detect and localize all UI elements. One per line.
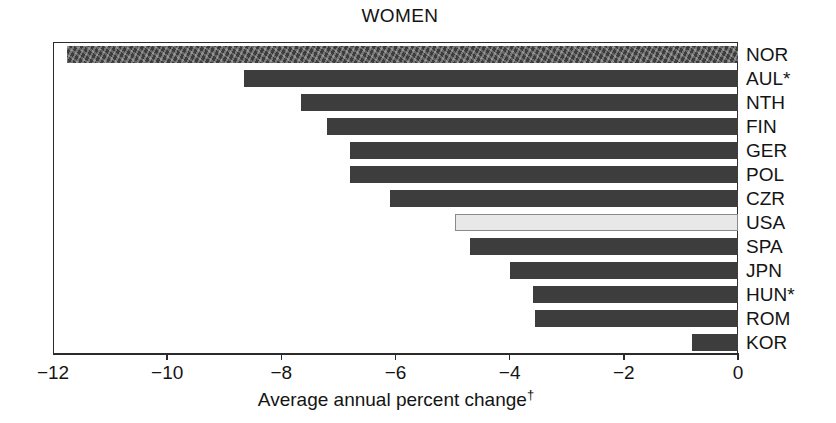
bar-aul xyxy=(244,70,738,87)
x-tick-label: −12 xyxy=(23,362,83,383)
bar-row xyxy=(53,164,738,188)
chart-figure: WOMEN −12−10−8−6−4−20 Average annual per… xyxy=(0,0,836,423)
bar-row xyxy=(53,140,738,164)
category-label-pol: POL xyxy=(746,165,784,184)
bar-row xyxy=(53,308,738,332)
x-tick xyxy=(281,353,283,360)
x-tick xyxy=(509,353,511,360)
bar-rom xyxy=(535,310,738,327)
bar-row xyxy=(53,212,738,236)
category-label-kor: KOR xyxy=(746,333,787,352)
bar-row xyxy=(53,116,738,140)
bar-usa xyxy=(455,214,738,231)
category-label-czr: CZR xyxy=(746,189,785,208)
category-label-nth: NTH xyxy=(746,93,785,112)
x-tick-label: 0 xyxy=(708,362,768,383)
category-label-fin: FIN xyxy=(746,117,777,136)
category-label-ger: GER xyxy=(746,141,787,160)
x-tick xyxy=(623,353,625,360)
category-label-nor: NOR xyxy=(746,45,788,64)
bar-row xyxy=(53,260,738,284)
bar-fin xyxy=(327,118,738,135)
x-axis-title-dagger: † xyxy=(527,387,534,402)
bar-hun xyxy=(533,286,739,303)
bar-row xyxy=(53,68,738,92)
x-tick xyxy=(737,353,739,360)
bars-layer xyxy=(53,42,738,354)
bar-row xyxy=(53,44,738,68)
x-axis-title-text: Average annual percent change xyxy=(258,389,527,410)
bar-nor xyxy=(67,46,738,63)
bar-row xyxy=(53,92,738,116)
x-tick-label: −4 xyxy=(480,362,540,383)
x-tick-label: −10 xyxy=(137,362,197,383)
chart-title: WOMEN xyxy=(0,5,800,27)
bar-spa xyxy=(470,238,738,255)
x-tick-label: −8 xyxy=(251,362,311,383)
category-label-jpn: JPN xyxy=(746,261,782,280)
bar-ger xyxy=(350,142,738,159)
category-label-rom: ROM xyxy=(746,309,790,328)
bar-jpn xyxy=(510,262,738,279)
x-tick xyxy=(166,353,168,360)
x-tick-label: −2 xyxy=(594,362,654,383)
x-tick xyxy=(395,353,397,360)
bar-row xyxy=(53,236,738,260)
bar-czr xyxy=(390,190,738,207)
bar-pol xyxy=(350,166,738,183)
category-label-hun: HUN* xyxy=(746,285,795,304)
bar-row xyxy=(53,284,738,308)
category-label-aul: AUL* xyxy=(746,69,790,88)
x-axis-title: Average annual percent change† xyxy=(53,387,739,411)
category-label-usa: USA xyxy=(746,213,785,232)
category-label-spa: SPA xyxy=(746,237,783,256)
bar-row xyxy=(53,188,738,212)
bar-nth xyxy=(301,94,738,111)
x-tick-label: −6 xyxy=(366,362,426,383)
bar-kor xyxy=(692,334,738,351)
